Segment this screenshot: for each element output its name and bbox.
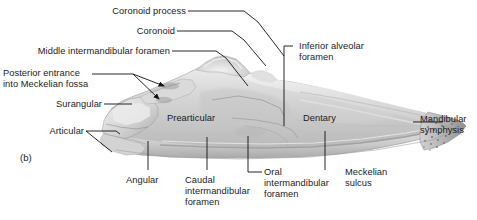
- label-oral-intermandibular-foramen-line3: foramen: [264, 189, 298, 200]
- panel-letter: (b): [20, 152, 32, 163]
- label-caudal-intermandibular-foramen-line2: intermandibular: [185, 186, 250, 197]
- label-meckelian-sulcus-line1: Meckelian: [345, 167, 387, 178]
- label-mandibular-symphysis-line2: symphysis: [420, 125, 464, 136]
- label-coronoid-process: Coronoid process: [86, 6, 186, 17]
- anatomical-figure: Coronoid process Coronoid Middle interma…: [0, 0, 477, 220]
- label-prearticular: Prearticular: [167, 113, 215, 124]
- label-articular: Articular: [24, 126, 84, 137]
- label-surangular: Surangular: [34, 99, 102, 110]
- label-dentary: Dentary: [303, 113, 336, 124]
- label-caudal-intermandibular-foramen-line1: Caudal: [185, 175, 215, 186]
- label-meckelian-sulcus-line2: sulcus: [345, 178, 372, 189]
- label-mandibular-symphysis-line1: Mandibular: [420, 114, 467, 125]
- label-oral-intermandibular-foramen-line1: Oral: [264, 167, 282, 178]
- label-middle-intermandibular-foramen: Middle intermandibular foramen: [22, 46, 170, 57]
- label-inferior-alveolar-foramen-line1: Inferior alveolar: [299, 41, 364, 52]
- label-coronoid: Coronoid: [107, 26, 175, 37]
- label-posterior-entrance-line1: Posterior entrance: [3, 68, 80, 79]
- label-inferior-alveolar-foramen-line2: foramen: [299, 52, 333, 63]
- label-angular: Angular: [126, 175, 158, 186]
- label-caudal-intermandibular-foramen-line3: foramen: [185, 197, 219, 208]
- label-oral-intermandibular-foramen-line2: intermandibular: [264, 178, 329, 189]
- label-posterior-entrance-line2: into Meckelian fossa: [3, 79, 88, 90]
